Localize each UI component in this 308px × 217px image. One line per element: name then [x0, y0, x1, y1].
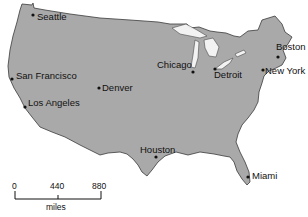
city-marker-chicago — [191, 70, 194, 73]
scale-bar — [15, 191, 101, 199]
us-map — [0, 0, 308, 217]
city-label-houston: Houston — [140, 145, 175, 155]
city-marker-los-angeles — [23, 105, 26, 108]
city-label-boston: Boston — [276, 42, 306, 52]
city-label-denver: Denver — [102, 83, 133, 93]
contiguous-us-landmass — [8, 3, 292, 185]
city-label-chicago: Chicago — [157, 60, 192, 70]
city-label-seattle: Seattle — [37, 12, 67, 22]
city-label-new-york: New York — [265, 66, 305, 76]
scale-tick-880: 880 — [92, 182, 106, 191]
city-marker-houston — [154, 155, 157, 158]
city-marker-boston — [276, 55, 279, 58]
city-label-san-francisco: San Francisco — [16, 71, 77, 81]
city-marker-miami — [246, 175, 249, 178]
city-marker-seattle — [31, 13, 34, 16]
city-label-miami: Miami — [252, 171, 277, 181]
city-marker-denver — [97, 86, 100, 89]
city-label-los-angeles: Los Angeles — [28, 98, 80, 108]
scale-unit-label: miles — [46, 203, 66, 212]
scale-tick-440: 440 — [50, 182, 64, 191]
city-marker-san-francisco — [10, 77, 13, 80]
scale-tick-0: 0 — [12, 182, 17, 191]
city-label-detroit: Detroit — [214, 70, 242, 80]
